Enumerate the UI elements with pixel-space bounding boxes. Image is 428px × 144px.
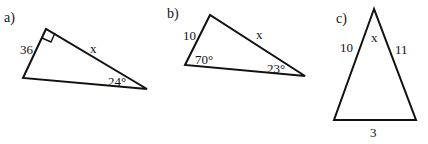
side-label-36: 36 — [20, 42, 34, 57]
angle-label-23: 23° — [267, 61, 285, 76]
side-label-10: 10 — [183, 28, 196, 43]
side-label-x: x — [90, 41, 97, 56]
figure-a-label: a) — [4, 10, 15, 26]
angle-label-70: 70° — [195, 52, 213, 67]
triangle-diagrams: a) 36 x 24° b) 10 x 70° 23° c) 10 11 x 3 — [0, 0, 428, 144]
figure-c-label: c) — [336, 11, 347, 27]
angle-label-24: 24° — [108, 74, 126, 89]
side-label-10: 10 — [340, 40, 353, 55]
angle-label-x: x — [371, 30, 378, 45]
figure-b: b) 10 x 70° 23° — [167, 6, 305, 76]
side-label-11: 11 — [395, 42, 408, 57]
figure-b-label: b) — [167, 6, 179, 22]
side-label-x: x — [256, 27, 263, 42]
side-label-3: 3 — [370, 125, 377, 140]
triangle-a — [23, 29, 147, 89]
figure-a: a) 36 x 24° — [4, 10, 147, 89]
figure-c: c) 10 11 x 3 — [334, 9, 416, 140]
